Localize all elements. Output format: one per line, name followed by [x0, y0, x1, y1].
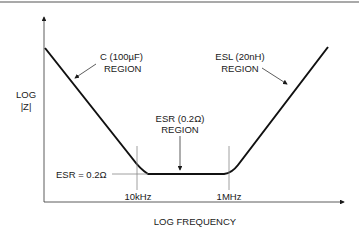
freq-10khz-label: 10kHz — [125, 191, 152, 202]
c-region-arrow — [75, 64, 96, 78]
impedance-curve — [45, 47, 328, 174]
impedance-diagram: C (100µF) REGION ESL (20nH) REGION ESR (… — [0, 0, 359, 250]
esr-value-label: ESR = 0.2Ω — [56, 169, 107, 180]
esl-region-arrow — [262, 68, 287, 84]
x-axis-label: LOG FREQUENCY — [154, 216, 237, 227]
y-axis-label-2: |Z| — [21, 101, 32, 112]
c-region-label-1: C (100µF) — [100, 51, 143, 62]
esl-region-label-1: ESL (20nH) — [215, 51, 264, 62]
esl-region-label-2: REGION — [221, 63, 259, 74]
esr-region-label-1: ESR (0.2Ω) — [156, 113, 205, 124]
freq-1mhz-label: 1MHz — [217, 191, 242, 202]
c-region-label-2: REGION — [104, 63, 142, 74]
y-axis-label-1: LOG — [16, 89, 36, 100]
esr-region-label-2: REGION — [161, 124, 199, 135]
